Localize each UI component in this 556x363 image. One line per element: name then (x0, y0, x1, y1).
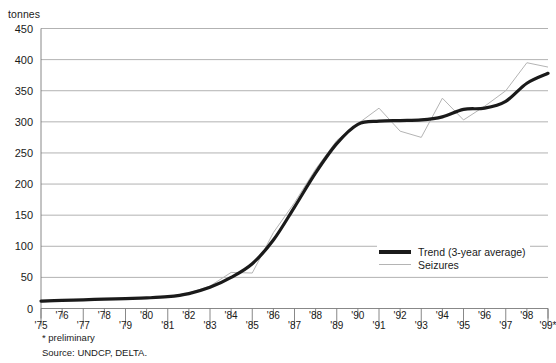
y-axis-tick-200: 200 (3, 178, 33, 190)
x-axis-tick-21: '96 (478, 310, 491, 321)
legend-item-seizures: Seizures (379, 258, 526, 271)
x-axis-tick-14: '89 (330, 320, 343, 331)
x-axis-tick-20: '95 (457, 320, 470, 331)
y-axis-tick-100: 100 (3, 240, 33, 252)
x-axis-tick-11: '86 (267, 310, 280, 321)
x-axis-tick-6: '81 (161, 320, 174, 331)
x-axis-tick-18: '93 (415, 320, 428, 331)
x-axis-tick-12: '87 (288, 320, 301, 331)
x-axis-tick-3: '78 (98, 310, 111, 321)
y-axis-tick-150: 150 (3, 209, 33, 221)
x-axis-tick-7: '82 (182, 310, 195, 321)
legend-swatch-trend-icon (379, 250, 411, 254)
y-axis-tick-350: 350 (3, 85, 33, 97)
x-axis-tick-23: '98 (520, 310, 533, 321)
x-axis-tick-19: '94 (436, 310, 449, 321)
x-axis-tick-0: '75 (34, 320, 47, 331)
x-axis-tick-15: '90 (351, 310, 364, 321)
y-axis-tick-250: 250 (3, 147, 33, 159)
y-axis-tick-400: 400 (3, 54, 33, 66)
legend-label-seizures: Seizures (418, 259, 459, 271)
y-axis-tick-300: 300 (3, 116, 33, 128)
x-axis-tick-24: '99* (540, 320, 556, 331)
x-axis-tick-4: '79 (119, 320, 132, 331)
y-axis-unit-label: tonnes (8, 8, 40, 20)
x-axis-tick-13: '88 (309, 310, 322, 321)
y-axis-tick-50: 50 (3, 271, 33, 283)
y-axis-tick-0: 0 (3, 303, 33, 315)
legend-item-trend: Trend (3-year average) (379, 245, 526, 258)
x-axis-tick-1: '76 (56, 310, 69, 321)
x-axis-tick-5: '80 (140, 310, 153, 321)
chart-plot-area (0, 0, 556, 363)
x-axis-tick-17: '92 (394, 310, 407, 321)
x-axis-tick-8: '83 (203, 320, 216, 331)
footnote-preliminary: * preliminary (42, 332, 95, 343)
x-axis-tick-16: '91 (372, 320, 385, 331)
legend-swatch-seizures-icon (379, 264, 411, 265)
x-axis-tick-22: '97 (499, 320, 512, 331)
footnote-source: Source: UNDCP, DELTA. (42, 347, 147, 358)
legend-label-trend: Trend (3-year average) (418, 246, 526, 258)
chart-container: tonnes 450400350300250200150100500 '75'7… (0, 0, 556, 363)
chart-legend: Trend (3-year average) Seizures (377, 243, 530, 274)
x-axis-tick-10: '85 (246, 320, 259, 331)
x-axis-tick-9: '84 (225, 310, 238, 321)
y-axis-tick-450: 450 (3, 23, 33, 35)
x-axis-tick-2: '77 (77, 320, 90, 331)
